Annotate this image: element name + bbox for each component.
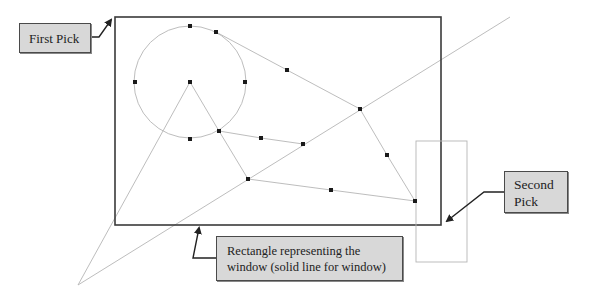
window-callout-arrow [193, 228, 216, 258]
grip-points [133, 24, 417, 203]
second-pick-callout: Second Pick [504, 171, 568, 213]
second-pick-label-line1: Second [514, 176, 567, 193]
grip-point [246, 177, 250, 181]
window-rectangle-callout: Rectangle representing the window (solid… [216, 236, 403, 281]
grip-point [188, 24, 192, 28]
diagonal-line-steep [78, 82, 190, 285]
grip-point [188, 80, 192, 84]
grip-point [243, 80, 247, 84]
grip-point [358, 107, 362, 111]
second-pick-label-line2: Pick [514, 193, 567, 210]
grip-point [285, 68, 289, 72]
grip-point [385, 153, 389, 157]
grip-point [217, 129, 221, 133]
grip-point [259, 136, 263, 140]
second-pick-arrow [447, 192, 504, 221]
window-rectangle [115, 17, 441, 225]
first-pick-callout: First Pick [19, 23, 91, 53]
window-callout-line1: Rectangle representing the [227, 243, 402, 259]
grip-point [413, 199, 417, 203]
first-pick-arrow [91, 20, 111, 37]
grip-point [301, 142, 305, 146]
grip-point [188, 137, 192, 141]
grip-point [329, 188, 333, 192]
window-callout-line2: window (solid line for window) [227, 259, 402, 275]
grip-point [133, 80, 137, 84]
grip-point [214, 30, 218, 34]
first-pick-label: First Pick [29, 30, 90, 47]
